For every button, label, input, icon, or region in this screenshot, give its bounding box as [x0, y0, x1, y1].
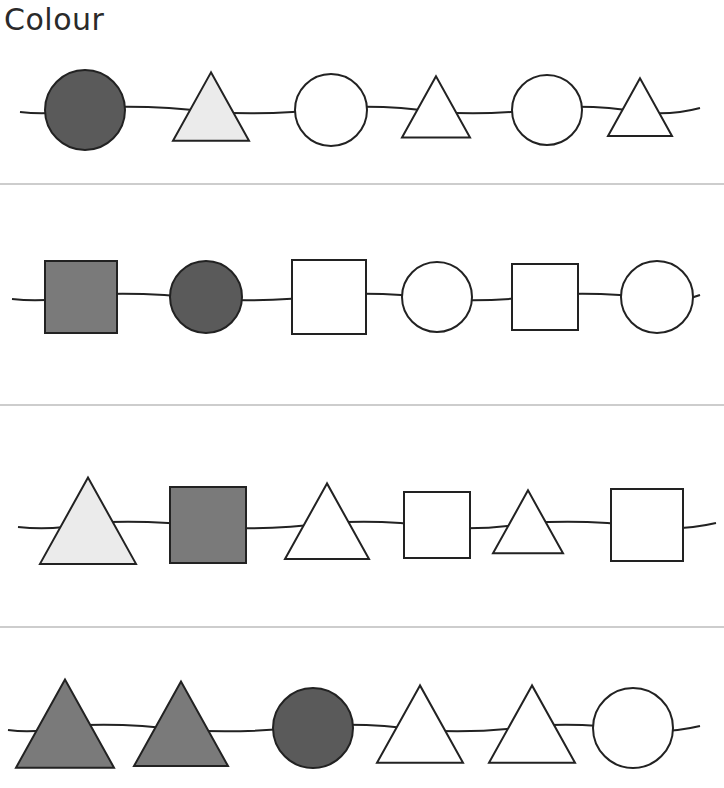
square-shape[interactable]: [611, 489, 683, 561]
square-shape[interactable]: [45, 261, 117, 333]
circle-shape[interactable]: [170, 261, 242, 333]
circle-shape[interactable]: [45, 70, 125, 150]
square-shape[interactable]: [170, 487, 246, 563]
circle-shape[interactable]: [621, 261, 693, 333]
triangle-shape[interactable]: [608, 78, 672, 136]
triangle-shape[interactable]: [173, 72, 249, 140]
circle-shape[interactable]: [593, 688, 673, 768]
triangle-shape[interactable]: [16, 679, 114, 767]
pattern-row: [12, 260, 700, 334]
circle-shape[interactable]: [273, 688, 353, 768]
pattern-row: [18, 477, 716, 563]
triangle-shape[interactable]: [377, 685, 463, 762]
pattern-row: [8, 679, 700, 768]
triangle-shape[interactable]: [40, 477, 136, 563]
circle-shape[interactable]: [512, 75, 582, 145]
pattern-worksheet: [0, 0, 724, 788]
square-shape[interactable]: [512, 264, 578, 330]
square-shape[interactable]: [404, 492, 470, 558]
square-shape[interactable]: [292, 260, 366, 334]
triangle-shape[interactable]: [134, 681, 228, 766]
triangle-shape[interactable]: [402, 76, 470, 137]
circle-shape[interactable]: [402, 262, 472, 332]
pattern-row: [20, 70, 700, 150]
circle-shape[interactable]: [295, 74, 367, 146]
